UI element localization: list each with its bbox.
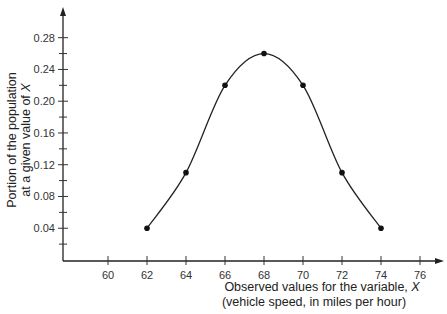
y-axis-arrow-icon: [60, 7, 66, 16]
x-axis-arrow-icon: [435, 258, 444, 264]
x-tick-label: 60: [102, 269, 114, 281]
x-tick-label: 62: [141, 269, 153, 281]
y-tick-label: 0.24: [34, 63, 55, 75]
data-point: [144, 225, 150, 231]
data-point: [378, 225, 384, 231]
y-tick-label: 0.28: [34, 32, 55, 44]
y-tick-label: 0.20: [34, 95, 55, 107]
data-point: [300, 83, 306, 89]
y-tick-label: 0.08: [34, 190, 55, 202]
x-axis-label-line2: (vehicle speed, in miles per hour): [222, 295, 406, 309]
x-tick-label: 64: [180, 269, 192, 281]
y-axis-label-line1: Portion of the population: [5, 72, 19, 208]
y-axis-label-line2: at a given value of X: [19, 83, 33, 197]
y-tick-label: 0.04: [34, 222, 55, 234]
chart: 0.040.080.120.160.200.240.28606264666870…: [0, 0, 447, 314]
data-point: [261, 51, 267, 57]
y-tick-label: 0.12: [34, 159, 55, 171]
data-point: [222, 83, 228, 89]
distribution-curve: [147, 54, 381, 229]
data-point: [339, 170, 345, 176]
data-point: [183, 170, 189, 176]
x-axis-label: Observed values for the variable, X: [224, 280, 420, 294]
y-tick-label: 0.16: [34, 127, 55, 139]
